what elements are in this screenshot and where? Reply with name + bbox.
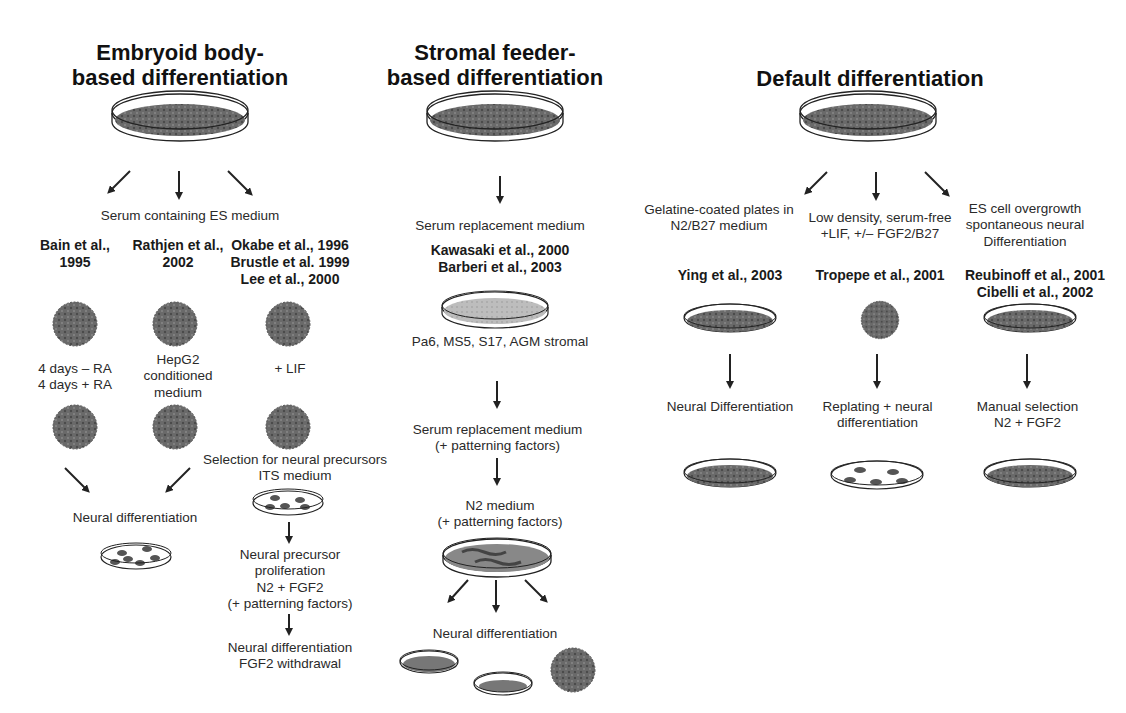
stromal-result-arrows <box>450 580 545 609</box>
branch-arrows-default <box>807 172 947 197</box>
default-row2 <box>684 459 1076 489</box>
citation-ying: Ying et al., 2003 <box>660 267 800 284</box>
condition-lif: + LIF <box>240 361 340 377</box>
default-row1 <box>684 301 1076 338</box>
es-cell-dish-default <box>800 91 936 141</box>
stromal-result-dishes <box>400 648 595 695</box>
es-cell-dish-stromal <box>427 91 563 141</box>
label-fgf2-withdrawal: Neural differentiation FGF2 withdrawal <box>200 640 380 673</box>
embryoid-bodies-row2 <box>53 405 310 449</box>
branch-arrows-embryoid <box>110 171 250 196</box>
label-n2-medium: N2 medium (+ patterning factors) <box>400 498 600 531</box>
citation-bain: Bain et al., 1995 <box>20 237 130 271</box>
citation-kawasaki-barberi: Kawasaki et al., 2000 Barberi et al., 20… <box>390 242 610 276</box>
label-selection-its: Selection for neural precursors ITS medi… <box>180 452 410 485</box>
n2-medium-dish <box>443 538 551 577</box>
label-serum-replacement-patterning: Serum replacement medium (+ patterning f… <box>385 422 610 455</box>
label-serum-replacement: Serum replacement medium <box>390 218 610 234</box>
default-arrows <box>730 354 1027 385</box>
citation-tropepe: Tropepe et al., 2001 <box>805 267 955 284</box>
title-default: Default differentiation <box>750 66 990 91</box>
title-embryoid: Embryoid body- based differentiation <box>60 40 300 91</box>
embryoid-bodies-row1 <box>53 302 310 346</box>
condition-ra: 4 days – RA 4 days + RA <box>20 361 130 394</box>
label-replating: Replating + neural differentiation <box>810 399 945 432</box>
merge-arrows <box>65 468 190 490</box>
label-neural-differentiation-stromal: Neural differentiation <box>410 626 580 642</box>
label-manual-selection: Manual selection N2 + FGF2 <box>965 399 1090 432</box>
title-stromal: Stromal feeder- based differentiation <box>375 40 615 91</box>
label-stromal-lines: Pa6, MS5, S17, AGM stromal <box>385 334 615 350</box>
label-neural-differentiation-default: Neural Differentiation <box>655 399 805 415</box>
label-neural-differentiation-embryoid: Neural differentiation <box>50 510 220 526</box>
citation-reubinoff-cibelli: Reubinoff et al., 2001 Cibelli et al., 2… <box>950 267 1120 301</box>
its-selection-dish <box>253 489 323 515</box>
citation-okabe-brustle-lee: Okabe et al., 1996 Brustle et al. 1999 L… <box>220 237 360 288</box>
condition-low-density: Low density, serum-free +LIF, +/– FGF2/B… <box>800 210 960 243</box>
condition-overgrowth: ES cell overgrowth spontaneous neural Di… <box>955 201 1095 250</box>
stromal-feeder-dish <box>442 291 548 328</box>
label-precursor-proliferation: Neural precursor proliferation N2 + FGF2… <box>200 547 380 613</box>
neural-differentiation-dish-embryoid <box>101 543 171 569</box>
condition-gelatine: Gelatine-coated plates in N2/B27 medium <box>638 202 800 235</box>
es-cell-dish-embryoid <box>112 91 248 141</box>
condition-hepg2: HepG2 conditioned medium <box>128 352 228 401</box>
label-serum-medium: Serum containing ES medium <box>60 208 320 224</box>
